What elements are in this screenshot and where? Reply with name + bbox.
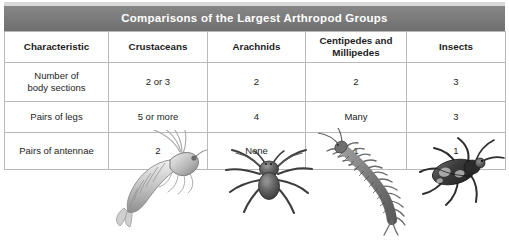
column-header-line-1: Centipedes and <box>320 35 393 46</box>
cell-centipedes-antennae: 1 <box>306 133 407 170</box>
cell-crustaceans-body-sections: 2 or 3 <box>109 63 208 102</box>
table-body: Number of body sections 2 or 3 2 2 3 Pai… <box>5 63 506 170</box>
table-header: Characteristic Crustaceans Arachnids Cen… <box>5 32 506 63</box>
comparison-table-frame: Comparisons of the Largest Arthropod Gro… <box>4 6 505 170</box>
column-header-arachnids: Arachnids <box>208 32 306 63</box>
cell-crustaceans-antennae: 2 <box>109 133 208 170</box>
cell-arachnids-body-sections: 2 <box>208 63 306 102</box>
row-label-line-1: Number of <box>34 70 78 81</box>
table-row: Pairs of antennae 2 None 1 1 <box>5 133 506 170</box>
cell-insects-legs: 3 <box>407 102 506 133</box>
cell-crustaceans-legs: 5 or more <box>109 102 208 133</box>
cell-centipedes-body-sections: 2 <box>306 63 407 102</box>
row-label-number-of-body-sections: Number of body sections <box>5 63 109 102</box>
cell-centipedes-legs: Many <box>306 102 407 133</box>
arthropod-comparison-figure: Comparisons of the Largest Arthropod Gro… <box>0 0 509 242</box>
row-label-line-2: body sections <box>27 82 85 93</box>
column-header-characteristic: Characteristic <box>5 32 109 63</box>
table-header-row: Characteristic Crustaceans Arachnids Cen… <box>5 32 506 63</box>
table-title-bar: Comparisons of the Largest Arthropod Gro… <box>4 6 505 31</box>
cell-arachnids-legs: 4 <box>208 102 306 133</box>
column-header-centipedes-millipedes: Centipedes and Millipedes <box>306 32 407 63</box>
table-row: Number of body sections 2 or 3 2 2 3 <box>5 63 506 102</box>
row-label-pairs-of-antennae: Pairs of antennae <box>5 133 109 170</box>
cell-insects-antennae: 1 <box>407 133 506 170</box>
comparison-table: Characteristic Crustaceans Arachnids Cen… <box>4 31 506 170</box>
cell-arachnids-antennae: None <box>208 133 306 170</box>
column-header-line-2: Millipedes <box>332 47 379 58</box>
cell-insects-body-sections: 3 <box>407 63 506 102</box>
column-header-insects: Insects <box>407 32 506 63</box>
table-row: Pairs of legs 5 or more 4 Many 3 <box>5 102 506 133</box>
table-title: Comparisons of the Largest Arthropod Gro… <box>121 13 388 25</box>
row-label-pairs-of-legs: Pairs of legs <box>5 102 109 133</box>
column-header-crustaceans: Crustaceans <box>109 32 208 63</box>
